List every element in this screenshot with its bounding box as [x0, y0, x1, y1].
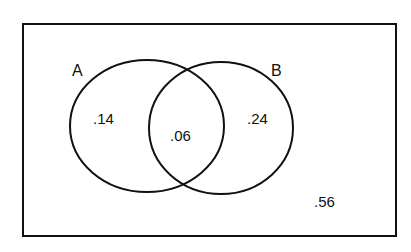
outside-value: .56 — [314, 194, 335, 209]
set-a-label: A — [72, 63, 83, 79]
universe-rectangle — [23, 24, 396, 236]
a-only-value: .14 — [93, 111, 114, 126]
set-b-label: B — [271, 63, 282, 79]
b-only-value: .24 — [247, 111, 268, 126]
intersection-value: .06 — [170, 128, 191, 143]
venn-diagram-canvas — [0, 0, 411, 252]
